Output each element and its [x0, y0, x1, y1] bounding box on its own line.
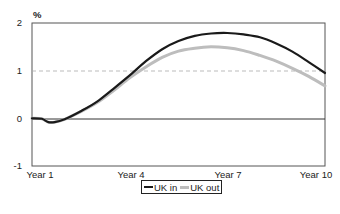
- x-tick-year-4: Year 4: [117, 169, 144, 180]
- legend-swatch-uk-in: [144, 186, 153, 188]
- legend-label-uk-out: UK out: [190, 182, 219, 193]
- x-tick-year-1: Year 1: [26, 169, 53, 180]
- y-unit-label: %: [33, 9, 42, 20]
- legend-label-uk-in: UK in: [154, 182, 177, 193]
- series-uk-out-line: [32, 47, 325, 123]
- plot-frame: [32, 23, 325, 166]
- legend: UK in UK out: [141, 180, 222, 194]
- y-tick-minus-1: -1: [14, 160, 22, 171]
- series-uk-in-line: [32, 33, 325, 123]
- x-tick-year-10: Year 10: [300, 169, 332, 180]
- x-tick-year-7: Year 7: [214, 169, 241, 180]
- y-tick-1: 1: [17, 65, 22, 76]
- legend-item-uk-out: UK out: [180, 182, 219, 193]
- y-tick-2: 2: [17, 17, 22, 28]
- legend-swatch-uk-out: [180, 186, 189, 189]
- legend-item-uk-in: UK in: [144, 182, 177, 193]
- y-tick-0: 0: [17, 113, 22, 124]
